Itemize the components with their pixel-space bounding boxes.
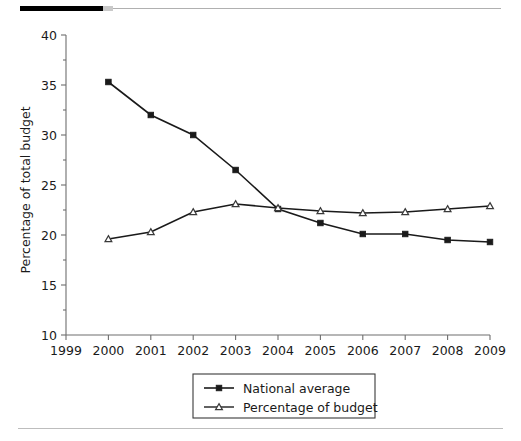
bottom-divider: [18, 428, 503, 429]
data-point: [402, 209, 409, 215]
data-point: [487, 203, 494, 209]
x-tick-label: 2005: [304, 343, 336, 358]
legend-label: National average: [243, 381, 351, 396]
series-line: [108, 204, 490, 239]
chart-axes: [66, 35, 490, 335]
x-tick-label: 2001: [135, 343, 167, 358]
y-axis-title: Percentage of total budget: [18, 106, 33, 273]
data-point: [444, 206, 451, 212]
x-axis-tick-labels: 1999200020012002200320042005200620072008…: [50, 343, 506, 358]
data-point: [360, 231, 366, 237]
data-point: [275, 205, 282, 211]
series-1: [106, 79, 493, 245]
y-axis-tick-labels: 10152025303540: [41, 28, 57, 343]
data-point: [106, 79, 112, 85]
x-tick-label: 2002: [177, 343, 209, 358]
x-tick-label: 2008: [432, 343, 464, 358]
x-tick-label: 2007: [389, 343, 421, 358]
y-tick-label: 30: [41, 128, 57, 143]
y-tick-label: 25: [41, 178, 57, 193]
x-axis-ticks: [66, 335, 490, 340]
x-tick-label: 2004: [262, 343, 294, 358]
x-tick-label: 1999: [50, 343, 82, 358]
legend-label: Percentage of budget: [243, 400, 378, 415]
data-point: [487, 239, 493, 245]
data-point: [317, 208, 324, 214]
data-point: [402, 231, 408, 237]
data-point: [148, 112, 154, 118]
x-tick-label: 2006: [347, 343, 379, 358]
data-point: [232, 201, 239, 207]
data-point: [147, 229, 154, 235]
data-point: [190, 132, 196, 138]
series-2: [105, 201, 493, 242]
y-tick-label: 20: [41, 228, 57, 243]
x-tick-label: 2009: [474, 343, 506, 358]
series-layer: [105, 79, 493, 245]
legend-marker: [216, 385, 222, 391]
y-tick-label: 15: [41, 278, 57, 293]
x-tick-label: 2000: [92, 343, 124, 358]
line-chart-plot: 10152025303540 1999200020012002200320042…: [0, 0, 521, 441]
data-point: [445, 237, 451, 243]
data-point: [359, 210, 366, 216]
chart-figure: 10152025303540 1999200020012002200320042…: [0, 0, 521, 441]
data-point: [190, 209, 197, 215]
y-tick-label: 10: [41, 328, 57, 343]
data-point: [105, 236, 112, 242]
data-point: [233, 167, 239, 173]
y-axis-ticks: [61, 35, 66, 335]
chart-legend: National averagePercentage of budget: [193, 374, 378, 418]
series-line: [108, 82, 490, 242]
x-tick-label: 2003: [220, 343, 252, 358]
y-tick-label: 40: [41, 28, 57, 43]
data-point: [318, 220, 324, 226]
y-tick-label: 35: [41, 78, 57, 93]
